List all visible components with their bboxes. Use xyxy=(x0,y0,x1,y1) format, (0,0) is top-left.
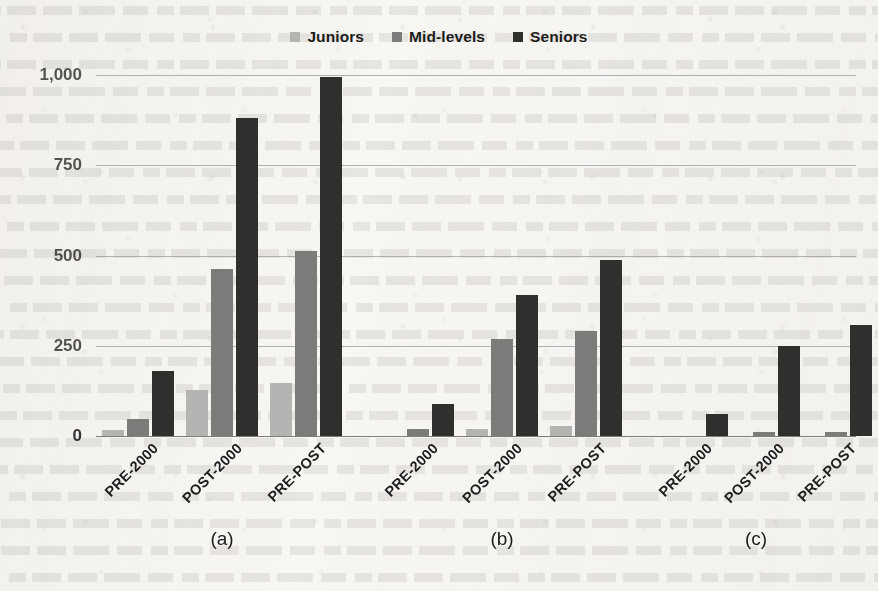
y-axis-tick-label: 750 xyxy=(54,155,82,175)
bar-cluster-post-2000 xyxy=(180,75,264,436)
x-axis-tick-label: PRE-POST xyxy=(264,440,329,505)
bar-cluster-pre-post xyxy=(800,75,872,436)
bar-seniors[interactable] xyxy=(850,325,872,436)
y-axis-tick-label: 1,000 xyxy=(39,65,82,85)
x-axis-tick-label: PRE-2000 xyxy=(382,440,442,500)
panel-b xyxy=(376,75,628,436)
gridline-0: 0 xyxy=(96,436,856,437)
x-axis-labels: PRE-2000POST-2000PRE-POSTPRE-2000POST-20… xyxy=(96,440,856,520)
legend-swatch-icon xyxy=(392,32,402,42)
bar-midlevels[interactable] xyxy=(295,251,317,436)
panel-a xyxy=(96,75,348,436)
x-axis-tick-label: POST-2000 xyxy=(179,440,245,506)
panel-separator xyxy=(628,75,656,436)
legend-swatch-icon xyxy=(513,32,523,42)
bar-midlevels[interactable] xyxy=(491,339,513,436)
bar-seniors[interactable] xyxy=(152,371,174,436)
bar-cluster-pre-2000 xyxy=(376,75,460,436)
bar-cluster-pre-2000 xyxy=(656,75,728,436)
grouped-bar-chart: JuniorsMid-levelsSeniors 1,0007505002500… xyxy=(0,0,878,591)
x-axis-tick-label: PRE-POST xyxy=(544,440,609,505)
bar-cluster-pre-post xyxy=(544,75,628,436)
panel-label-a: (a) xyxy=(210,528,233,550)
x-axis-tick-label: PRE-POST xyxy=(794,440,859,505)
legend-item-seniors[interactable]: Seniors xyxy=(513,28,588,46)
bar-juniors[interactable] xyxy=(102,430,124,436)
bar-cluster-pre-post xyxy=(264,75,348,436)
bar-cluster-pre-2000 xyxy=(96,75,180,436)
legend-swatch-icon xyxy=(290,32,300,42)
bar-midlevels[interactable] xyxy=(407,429,429,436)
bar-juniors[interactable] xyxy=(270,383,292,436)
y-axis-tick-label: 0 xyxy=(73,426,82,446)
bar-midlevels[interactable] xyxy=(753,432,775,436)
bar-seniors[interactable] xyxy=(778,346,800,436)
x-axis-tick-label: POST-2000 xyxy=(459,440,525,506)
chart-legend: JuniorsMid-levelsSeniors xyxy=(0,28,878,46)
x-axis-tick-label: POST-2000 xyxy=(721,440,787,506)
x-axis-tick-label: PRE-2000 xyxy=(656,440,716,500)
y-axis-tick-label: 250 xyxy=(54,336,82,356)
bar-juniors[interactable] xyxy=(550,426,572,436)
bar-midlevels[interactable] xyxy=(825,432,847,436)
legend-label: Mid-levels xyxy=(409,28,485,46)
bar-midlevels[interactable] xyxy=(127,419,149,436)
panel-label-b: (b) xyxy=(490,528,513,550)
legend-item-juniors[interactable]: Juniors xyxy=(290,28,364,46)
bar-seniors[interactable] xyxy=(600,260,622,436)
bar-midlevels[interactable] xyxy=(575,331,597,436)
panel-label-c: (c) xyxy=(745,528,767,550)
bar-cluster-post-2000 xyxy=(460,75,544,436)
chart-page: JuniorsMid-levelsSeniors 1,0007505002500… xyxy=(0,0,878,591)
x-axis-tick-label: PRE-2000 xyxy=(102,440,162,500)
legend-item-mid-levels[interactable]: Mid-levels xyxy=(392,28,485,46)
bar-seniors[interactable] xyxy=(432,404,454,436)
panel-separator xyxy=(348,75,376,436)
bar-cluster-post-2000 xyxy=(728,75,800,436)
bar-seniors[interactable] xyxy=(706,414,728,436)
bar-groups xyxy=(96,75,856,436)
bar-seniors[interactable] xyxy=(236,118,258,436)
bar-juniors[interactable] xyxy=(186,390,208,436)
legend-label: Juniors xyxy=(307,28,364,46)
bar-juniors[interactable] xyxy=(466,429,488,436)
bar-seniors[interactable] xyxy=(516,295,538,437)
y-axis-tick-label: 500 xyxy=(54,246,82,266)
bar-seniors[interactable] xyxy=(320,77,342,436)
legend-label: Seniors xyxy=(530,28,588,46)
plot-area: 1,0007505002500 xyxy=(96,75,856,436)
panel-c xyxy=(656,75,856,436)
bar-midlevels[interactable] xyxy=(211,269,233,436)
panel-labels: (a)(b)(c) xyxy=(96,528,856,558)
